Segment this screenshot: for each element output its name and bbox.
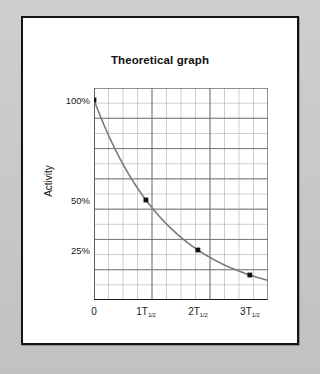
square-marker-icon [247, 273, 252, 278]
y-tick-label: 25% [71, 245, 90, 256]
x-tick-label: 3T1/2 [240, 306, 259, 318]
decay-curve-chart [94, 88, 268, 300]
data-point-markers [94, 98, 252, 278]
square-marker-icon [94, 98, 96, 103]
square-marker-icon [195, 248, 200, 253]
figure-card: Theoretical graph Activity 100%50%25% 01… [21, 16, 299, 345]
page-background: Theoretical graph Activity 100%50%25% 01… [0, 0, 320, 374]
y-tick-label: 50% [71, 195, 90, 206]
x-tick-label: 0 [91, 306, 97, 317]
plot-area: 100%50%25% 01T1/22T1/23T1/2 [94, 88, 268, 300]
y-axis-title: Activity [43, 165, 54, 197]
page-title: Theoretical graph [23, 54, 297, 66]
y-tick-label: 100% [66, 95, 90, 106]
grid-minor-lines [94, 88, 268, 300]
x-tick-label: 2T1/2 [188, 306, 207, 318]
x-tick-label: 1T1/2 [136, 306, 155, 318]
square-marker-icon [144, 198, 149, 203]
